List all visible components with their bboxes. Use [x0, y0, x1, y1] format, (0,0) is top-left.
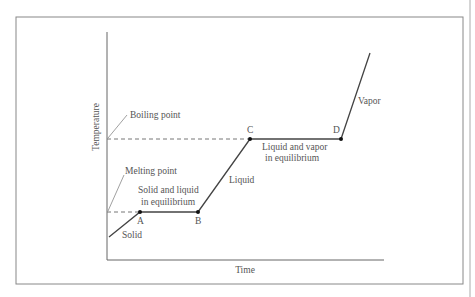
point-d-label: D	[333, 125, 340, 135]
y-axis-label: Temperature	[91, 103, 101, 151]
point-d	[339, 137, 343, 141]
x-axis-label: Time	[235, 265, 255, 275]
heating-curve-line	[109, 53, 370, 237]
liquid-label: Liquid	[229, 175, 255, 185]
vapor-label: Vapor	[358, 96, 382, 106]
boiling-point-label: Boiling point	[130, 110, 181, 120]
point-a	[138, 210, 142, 214]
point-b	[196, 210, 200, 214]
frame-border	[16, 17, 463, 284]
liquid-vapor-label-line2: in equilibrium	[265, 153, 320, 163]
point-c	[248, 137, 252, 141]
liquid-vapor-label-line1: Liquid and vapor	[262, 142, 328, 152]
point-a-label: A	[137, 216, 144, 226]
boiling-point-leader	[108, 115, 127, 138]
point-c-label: C	[247, 125, 253, 135]
melting-point-leader	[108, 175, 124, 211]
solid-label: Solid	[122, 230, 142, 240]
solid-liquid-label-line2: in equilibrium	[141, 197, 196, 207]
heating-curve-diagram: A B C D Boiling point Melting point Soli…	[0, 0, 475, 297]
melting-point-label: Melting point	[125, 166, 177, 176]
point-b-label: B	[195, 216, 201, 226]
solid-liquid-label-line1: Solid and liquid	[138, 185, 199, 195]
